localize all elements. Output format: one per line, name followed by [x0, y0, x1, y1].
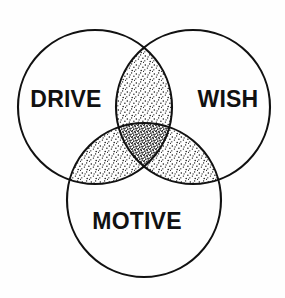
venn-diagram-svg: DRIVE WISH MOTIVE: [0, 0, 285, 298]
label-motive: MOTIVE: [92, 208, 181, 234]
label-drive: DRIVE: [30, 86, 101, 112]
venn-diagram-container: DRIVE WISH MOTIVE: [0, 0, 285, 298]
label-wish: WISH: [198, 86, 259, 112]
